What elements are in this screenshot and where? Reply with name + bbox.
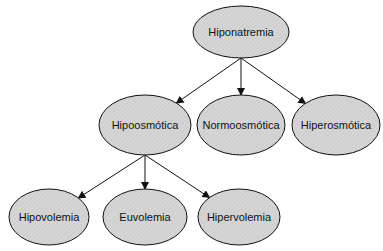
node-root: Hiponatremia (193, 6, 289, 58)
node-euv: Euvolemia (103, 189, 187, 245)
node-label: Hiperosmótica (301, 119, 372, 131)
node-label: Hipervolemia (207, 211, 272, 223)
node-label: Hiponatremia (208, 26, 274, 38)
node-label: Hipovolemia (19, 211, 80, 223)
node-label: Euvolemia (119, 211, 171, 223)
node-label: Normoosmótica (202, 119, 280, 131)
node-hipo: Hipoosmótica (99, 95, 191, 155)
node-hiperv: Hipervolemia (198, 189, 280, 245)
node-hiper: Hiperosmótica (292, 95, 380, 155)
node-hipov: Hipovolemia (9, 189, 89, 245)
diagram-canvas: HiponatremiaHipoosmóticaNormoosmóticaHip… (0, 0, 383, 251)
flowchart: HiponatremiaHipoosmóticaNormoosmóticaHip… (0, 0, 383, 251)
node-normo: Normoosmótica (197, 95, 285, 155)
node-label: Hipoosmótica (112, 119, 180, 131)
nodes: HiponatremiaHipoosmóticaNormoosmóticaHip… (9, 6, 380, 245)
